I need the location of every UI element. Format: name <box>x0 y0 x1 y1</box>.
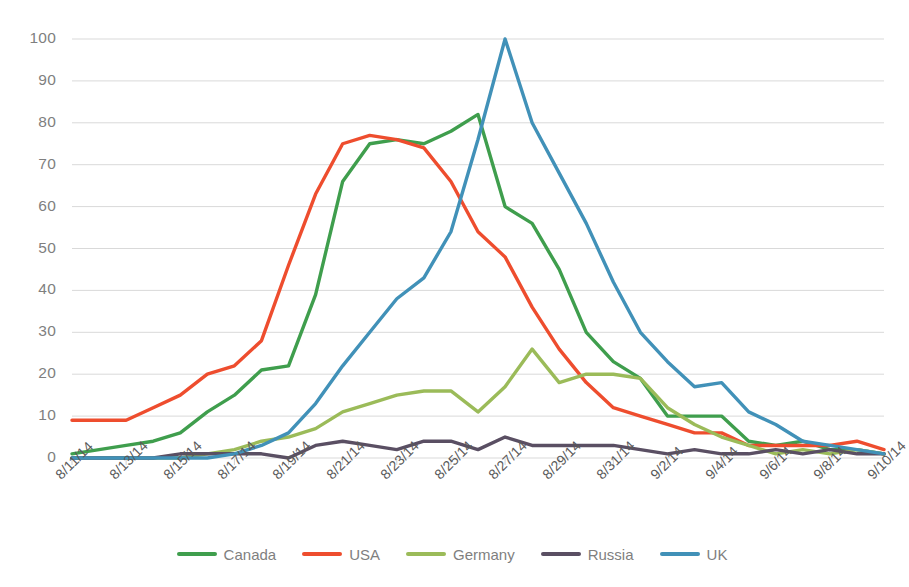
legend-swatch-canada <box>177 552 217 556</box>
y-axis-tick-label: 50 <box>0 239 56 257</box>
legend-swatch-germany <box>406 552 446 556</box>
series-line-canada <box>72 114 884 453</box>
y-axis-tick-label: 0 <box>0 448 56 466</box>
y-axis-tick-label: 100 <box>0 29 56 47</box>
chart-legend: CanadaUSAGermanyRussiaUK <box>0 540 904 568</box>
y-axis-tick-label: 10 <box>0 406 56 424</box>
legend-item-uk[interactable]: UK <box>660 546 728 563</box>
legend-swatch-uk <box>660 552 700 556</box>
legend-swatch-russia <box>541 552 581 556</box>
legend-label: Canada <box>224 546 277 563</box>
legend-label: UK <box>707 546 728 563</box>
legend-label: USA <box>349 546 380 563</box>
legend-label: Germany <box>453 546 515 563</box>
y-axis-tick-label: 30 <box>0 322 56 340</box>
y-axis-tick-label: 60 <box>0 197 56 215</box>
y-axis-tick-label: 40 <box>0 280 56 298</box>
y-axis-tick-label: 20 <box>0 364 56 382</box>
legend-item-usa[interactable]: USA <box>302 546 380 563</box>
gridlines <box>72 39 884 458</box>
series-line-usa <box>72 135 884 449</box>
y-axis-tick-label: 70 <box>0 155 56 173</box>
legend-item-russia[interactable]: Russia <box>541 546 634 563</box>
legend-swatch-usa <box>302 552 342 556</box>
legend-item-germany[interactable]: Germany <box>406 546 515 563</box>
legend-item-canada[interactable]: Canada <box>177 546 277 563</box>
legend-label: Russia <box>588 546 634 563</box>
y-axis-tick-label: 80 <box>0 113 56 131</box>
y-axis-tick-label: 90 <box>0 71 56 89</box>
